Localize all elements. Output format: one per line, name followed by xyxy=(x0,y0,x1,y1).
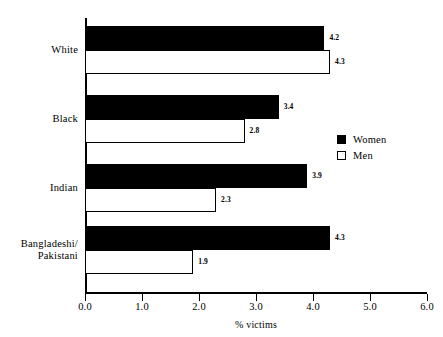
x-axis-tick-label: 2.0 xyxy=(179,301,219,312)
legend-label-women: Women xyxy=(353,134,386,145)
x-axis-tick xyxy=(199,294,200,301)
legend-label-men: Men xyxy=(353,150,373,161)
bar-value-label: 2.8 xyxy=(250,127,260,135)
x-axis-tick-label: 5.0 xyxy=(350,301,390,312)
bar-men-0 xyxy=(85,50,330,74)
category-label: Black xyxy=(0,113,78,125)
x-axis-tick xyxy=(370,294,371,301)
bar-men-2 xyxy=(85,188,216,212)
x-axis-title: % victims xyxy=(85,319,427,330)
x-axis-tick xyxy=(256,294,257,301)
bar-women-1 xyxy=(85,95,279,119)
category-label: Bangladeshi/Pakistani xyxy=(0,238,78,262)
x-axis-tick-label: 0.0 xyxy=(65,301,105,312)
bar-value-label: 1.9 xyxy=(198,258,208,266)
x-axis-tick-label: 1.0 xyxy=(122,301,162,312)
bar-value-label: 4.2 xyxy=(329,34,339,42)
bar-women-3 xyxy=(85,226,330,250)
bar-value-label: 4.3 xyxy=(335,58,345,66)
legend-item-women: Women xyxy=(337,131,437,147)
bar-value-label: 2.3 xyxy=(221,196,231,204)
legend-item-men: Men xyxy=(337,147,437,163)
x-axis-tick xyxy=(313,294,314,301)
x-axis-tick-label: 6.0 xyxy=(407,301,443,312)
filled-square-icon xyxy=(337,135,346,144)
bar-women-0 xyxy=(85,26,324,50)
bar-men-3 xyxy=(85,250,193,274)
bar-women-2 xyxy=(85,164,307,188)
x-axis-tick xyxy=(427,294,428,301)
x-axis-tick xyxy=(85,294,86,301)
bar-men-1 xyxy=(85,119,245,143)
hollow-square-icon xyxy=(337,151,346,160)
bar-value-label: 3.4 xyxy=(284,103,294,111)
x-axis-tick-label: 3.0 xyxy=(236,301,276,312)
x-axis-tick-label: 4.0 xyxy=(293,301,333,312)
category-label: White xyxy=(0,44,78,56)
chart-legend: Women Men xyxy=(337,131,437,163)
bar-value-label: 3.9 xyxy=(312,172,322,180)
category-label: Indian xyxy=(0,182,78,194)
bar-chart: 0.01.02.03.04.05.06.0 4.24.3White3.42.8B… xyxy=(0,0,443,337)
x-axis-tick xyxy=(142,294,143,301)
bar-value-label: 4.3 xyxy=(335,234,345,242)
